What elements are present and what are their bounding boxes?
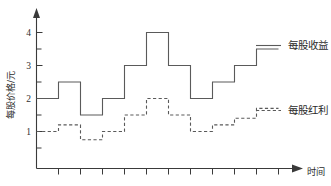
legend: 每股收益 每股红利 (256, 39, 329, 116)
chart-canvas: 4 3 2 1 每股收益 每股红 (0, 0, 331, 186)
y-tick-label-4: 4 (26, 28, 31, 38)
y-axis-label: 每股价格/元 (5, 71, 16, 119)
y-tick-label-1: 1 (26, 127, 31, 137)
x-axis-label: 时间 (307, 166, 325, 177)
legend-label-dividend: 每股红利 (288, 104, 328, 116)
y-tick-label-2: 2 (26, 94, 31, 104)
series-dividend-per-share (37, 99, 279, 140)
x-axis-arrow-icon (292, 165, 303, 173)
series-group (37, 33, 279, 140)
x-ticks-group (59, 169, 279, 175)
step-chart: 4 3 2 1 每股收益 每股红 (0, 0, 331, 186)
legend-label-earnings: 每股收益 (288, 39, 329, 51)
y-ticks-group: 4 3 2 1 (26, 28, 42, 148)
y-axis-arrow-icon (33, 8, 40, 18)
series-earnings-per-share (37, 33, 279, 116)
y-tick-label-3: 3 (26, 61, 31, 71)
